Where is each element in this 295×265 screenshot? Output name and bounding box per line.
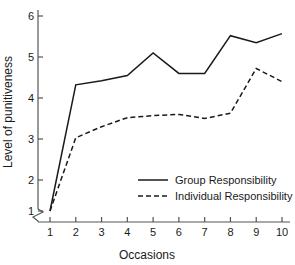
x-tick-label: 7 (202, 226, 208, 238)
y-axis-ticks (38, 16, 43, 211)
chart-figure: 123456 12345678910 Occasions Level of pu… (0, 0, 295, 265)
y-axis-title: Level of punitiveness (1, 56, 15, 168)
x-tick-label: 6 (176, 226, 182, 238)
x-tick-label: 5 (150, 226, 156, 238)
x-axis-tick-labels: 12345678910 (47, 226, 288, 238)
x-tick-label: 4 (124, 226, 130, 238)
x-axis: 12345678910 (38, 217, 290, 238)
x-tick-label: 10 (276, 226, 288, 238)
x-axis-ticks (50, 217, 282, 222)
y-tick-label: 2 (28, 174, 34, 186)
legend: Group Responsibility Individual Responsi… (138, 174, 293, 202)
x-axis-title: Occasions (119, 248, 175, 262)
x-tick-label: 8 (227, 226, 233, 238)
y-tick-label: 1 (28, 205, 34, 217)
x-tick-label: 3 (98, 226, 104, 238)
y-tick-label: 3 (28, 133, 34, 145)
y-tick-label: 5 (28, 51, 34, 63)
line-chart: 123456 12345678910 Occasions Level of pu… (0, 0, 295, 265)
x-tick-label: 1 (47, 226, 53, 238)
y-tick-label: 4 (28, 92, 34, 104)
y-tick-label: 6 (28, 10, 34, 22)
y-axis: 123456 (28, 10, 43, 222)
x-tick-label: 9 (253, 226, 259, 238)
y-axis-tick-labels: 123456 (28, 10, 34, 217)
x-tick-label: 2 (73, 226, 79, 238)
legend-label-individual-responsibility: Individual Responsibility (175, 190, 293, 202)
legend-label-group-responsibility: Group Responsibility (175, 174, 277, 186)
